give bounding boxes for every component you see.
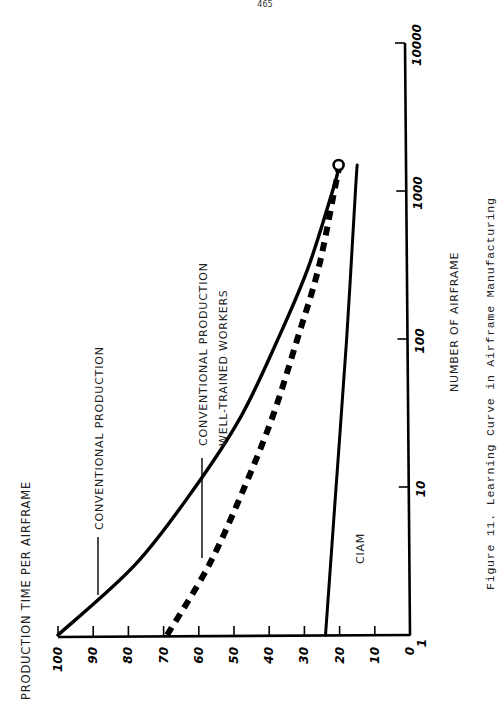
value-axis-tick-label: 70 [157, 647, 171, 664]
airframe-axis-tick-label: 1 [415, 639, 429, 647]
value-axis-tick-label: 30 [297, 647, 311, 664]
value-axis-tick-label: 20 [333, 647, 347, 664]
well-trained-label-line1: CONVENTIONAL PRODUCTION [197, 262, 210, 446]
learning-curve-chart: 0102030405060708090100110100100010000 CO… [0, 0, 500, 716]
chart-axes: 0102030405060708090100110100100010000 [51, 24, 429, 672]
airframe-axis-tick-label: 100 [413, 328, 427, 353]
value-axis-tick-label: 0 [403, 647, 417, 655]
chart-annotations: CONVENTIONAL PRODUCTIONCONVENTIONAL PROD… [19, 197, 497, 700]
conventional-production-label: CONVENTIONAL PRODUCTION [93, 346, 106, 530]
value-axis-tick-label: 40 [262, 647, 276, 665]
y-axis-title: PRODUCTION TIME PER AIRFRAME [19, 481, 33, 700]
well-trained-workers-curve [167, 165, 339, 635]
value-axis-tick-label: 100 [51, 647, 65, 672]
x-axis-title: NUMBER OF AIRFRAME [448, 252, 461, 392]
airframe-axis-tick-label: 10000 [410, 24, 424, 66]
curve-end-marker [334, 160, 344, 170]
value-axis-tick-label: 10 [368, 647, 382, 664]
ciam-label: CIAM [354, 533, 367, 564]
value-axis-tick-label: 80 [121, 647, 135, 664]
value-axis-tick-label: 50 [227, 647, 241, 664]
ciam-curve [326, 165, 358, 635]
airframe-axis-tick-label: 10 [414, 481, 428, 498]
value-axis-tick-label: 90 [86, 647, 100, 664]
airframe-axis-tick-label: 1000 [411, 176, 425, 209]
well-trained-label-line2: WELL-TRAINED WORKERS [217, 289, 230, 446]
figure-caption: Figure 11. Learning Curve in Airframe Ma… [484, 197, 497, 590]
value-axis-tick-label: 60 [192, 647, 206, 664]
